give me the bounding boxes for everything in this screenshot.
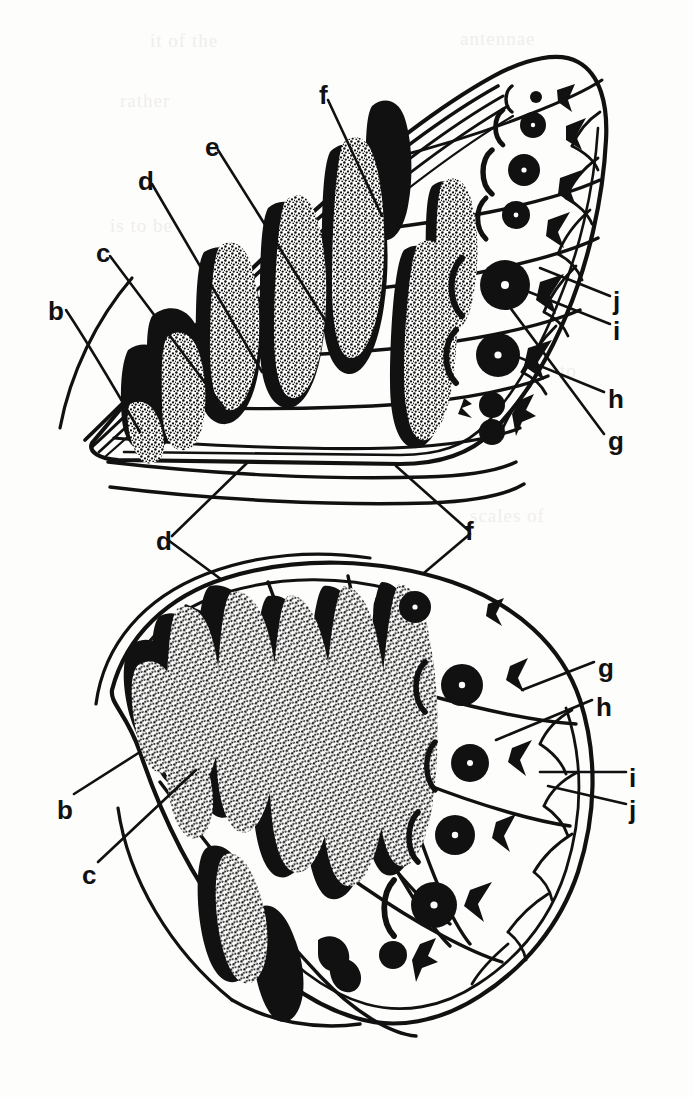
label-fw-e: e bbox=[205, 134, 219, 160]
butterfly-wing-figure: it of theantennaeratherof theis to beelo… bbox=[0, 0, 693, 1097]
label-fw-i: i bbox=[613, 318, 620, 344]
forewing-inner-margin-2 bbox=[110, 484, 524, 504]
label-hw-f: f bbox=[465, 518, 474, 544]
label-hw-c: c bbox=[82, 862, 96, 888]
hindwing-group bbox=[74, 554, 626, 1036]
forewing-group bbox=[60, 57, 610, 504]
fw-ocellus-7a bbox=[479, 392, 505, 418]
label-hw-d: d bbox=[156, 528, 172, 554]
label-fw-h: h bbox=[608, 386, 624, 412]
label-hw-j: j bbox=[629, 797, 636, 823]
label-fw-b: b bbox=[48, 298, 64, 324]
wing-illustration bbox=[0, 0, 693, 1097]
label-fw-f: f bbox=[319, 82, 328, 108]
fw-ocellus-1 bbox=[530, 91, 542, 103]
label-hw-g: g bbox=[598, 655, 614, 681]
label-hw-b: b bbox=[57, 797, 73, 823]
hw-ocellus-6 bbox=[379, 941, 407, 969]
leader-hw-b bbox=[74, 752, 140, 794]
label-hw-h: h bbox=[596, 694, 612, 720]
fw-ocellus-7b bbox=[479, 419, 505, 445]
label-fw-j: j bbox=[613, 288, 620, 314]
label-fw-d: d bbox=[138, 168, 154, 194]
label-fw-c: c bbox=[96, 240, 110, 266]
label-hw-i: i bbox=[629, 765, 636, 791]
label-fw-g: g bbox=[608, 428, 624, 454]
